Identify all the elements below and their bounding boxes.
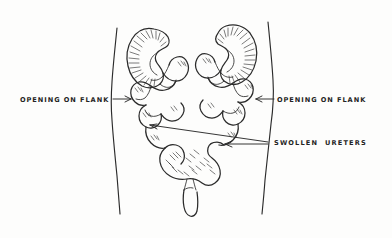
- illustration-canvas: OPENING ON FLANK OPENING ON FLANK SWOLLE…: [0, 0, 392, 238]
- leader-swollen-ureters-left: [150, 124, 268, 142]
- right-ureter-hatching: [203, 58, 253, 137]
- torso-left-contour: [111, 28, 120, 214]
- torso-right-contour: [262, 22, 273, 214]
- leader-right-flank: [256, 96, 274, 102]
- urethra: [183, 188, 198, 217]
- label-opening-on-flank-right: OPENING ON FLANK: [277, 96, 366, 104]
- anatomical-figure: OPENING ON FLANK OPENING ON FLANK SWOLLE…: [0, 0, 392, 238]
- bladder: [160, 142, 224, 190]
- left-ureter-hatching: [135, 61, 186, 140]
- leader-left-flank: [113, 96, 131, 102]
- label-swollen-ureters: SWOLLEN URETERS: [274, 139, 367, 147]
- label-opening-on-flank-left: OPENING ON FLANK: [20, 96, 109, 104]
